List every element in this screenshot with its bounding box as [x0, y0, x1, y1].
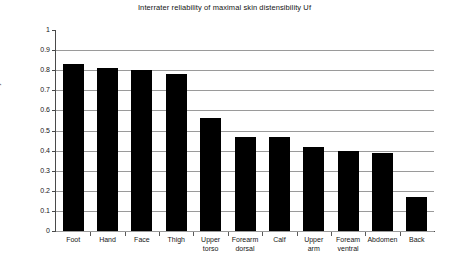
x-axis-tick-label: Foot: [56, 236, 90, 245]
x-axis-tick-label: Foream ventral: [331, 236, 365, 253]
x-axis-tick-label: Abdomen: [365, 236, 399, 245]
bar: [303, 147, 324, 231]
bar: [131, 70, 152, 231]
bar: [200, 118, 221, 231]
y-axis-tick-label: 0.8: [10, 66, 50, 73]
x-axis-tick-label: Back: [400, 236, 434, 245]
x-axis-tick-mark: [125, 232, 126, 236]
y-axis-tick-label: 0.6: [10, 106, 50, 113]
y-axis-tick-label: 0.1: [10, 207, 50, 214]
y-axis-tick-label: 0.4: [10, 147, 50, 154]
x-axis-tick-label: Face: [125, 236, 159, 245]
gridline: [56, 231, 434, 232]
bar: [166, 74, 187, 231]
y-axis-tick-label: 0.7: [10, 86, 50, 93]
gridline: [56, 50, 434, 51]
x-axis-tick-label: Upper torso: [193, 236, 227, 253]
bar: [235, 137, 256, 231]
x-axis-tick-mark: [331, 232, 332, 236]
x-axis-tick-mark: [228, 232, 229, 236]
y-axis-tick-label: 0.9: [10, 46, 50, 53]
x-axis-tick-mark: [262, 232, 263, 236]
bar: [269, 137, 290, 231]
bar-chart: Interrater reliability of maximal skin d…: [0, 0, 449, 267]
y-axis-tick-label: 1: [10, 26, 50, 33]
x-axis-tick-label: Upper arm: [297, 236, 331, 253]
x-axis-tick-label: Forearm dorsal: [228, 236, 262, 253]
bar: [372, 153, 393, 231]
x-axis-tick-label: Thigh: [159, 236, 193, 245]
plot-area: [56, 30, 434, 231]
bar: [406, 197, 427, 231]
bar: [63, 64, 84, 231]
x-axis-tick-label: Hand: [90, 236, 124, 245]
bar: [338, 151, 359, 231]
x-axis-tick-mark: [90, 232, 91, 236]
y-axis-tick-label: 0.2: [10, 187, 50, 194]
x-axis-tick-mark: [400, 232, 401, 236]
x-axis-tick-mark: [365, 232, 366, 236]
x-axis-tick-label: Calf: [262, 236, 296, 245]
x-axis-tick-mark: [193, 232, 194, 236]
y-axis-tick-label: 0.5: [10, 127, 50, 134]
y-axis-tick-label: 0: [10, 227, 50, 234]
bar: [97, 68, 118, 231]
y-axis-tick-label: 0.3: [10, 167, 50, 174]
x-axis-tick-mark: [159, 232, 160, 236]
x-axis-tick-mark: [297, 232, 298, 236]
